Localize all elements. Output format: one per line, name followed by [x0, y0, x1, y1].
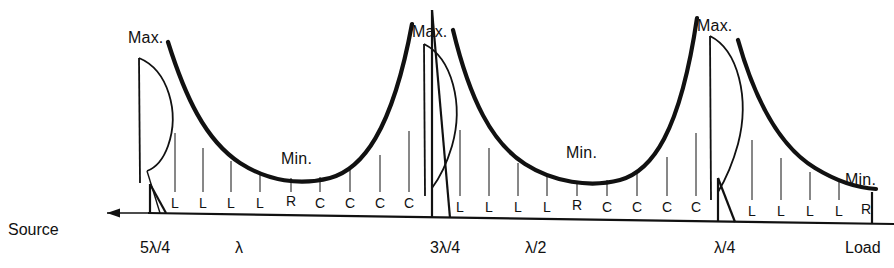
leaf-loop-3-spine — [710, 36, 711, 200]
cell-letter: C — [662, 200, 672, 214]
cell-letter: C — [375, 196, 385, 210]
cell-letter: C — [345, 196, 355, 210]
cell-letter: L — [256, 196, 264, 210]
distance-label-lambda4: λ/4 — [714, 240, 735, 256]
divider-lambda4 — [718, 178, 735, 222]
cell-letter: L — [456, 200, 464, 214]
cell-letter: C — [404, 196, 414, 210]
divider-3lambda4 — [432, 10, 450, 218]
cell-letter: C — [602, 200, 612, 214]
max-label-3: Max. — [697, 18, 732, 34]
cell-letter: R — [286, 194, 296, 208]
distance-label-lambda2: λ/2 — [525, 240, 546, 256]
cell-letter: L — [171, 196, 179, 210]
min-label-3: Min. — [845, 172, 876, 188]
distance-label-3lambda4: 3λ/4 — [430, 240, 460, 256]
distance-label-5lambda4: 5λ/4 — [140, 240, 170, 256]
min-label-1: Min. — [281, 151, 312, 167]
max-label-1: Max. — [128, 30, 163, 46]
leaf-loop-1-spine — [139, 58, 140, 183]
cell-letter: L — [835, 204, 843, 218]
distance-label-lambda: λ — [235, 240, 243, 256]
cell-letter: L — [485, 200, 493, 214]
cell-letter: L — [777, 204, 785, 218]
leaf-loop-3 — [710, 36, 743, 192]
cell-letter: L — [806, 204, 814, 218]
min-label-2: Min. — [566, 145, 597, 161]
swr-standing-wave-diagram: Source Max. Max. Max. Min. Min. Min. L L… — [0, 0, 894, 268]
load-label: Load — [845, 240, 881, 256]
leaf-loop-2-spine — [424, 44, 425, 196]
leaf-loop-1 — [139, 58, 173, 171]
cell-letter: R — [572, 198, 582, 212]
source-label: Source — [8, 222, 59, 238]
max-label-2: Max. — [412, 24, 447, 40]
source-arrow — [107, 209, 148, 218]
cell-letter: L — [227, 196, 235, 210]
cell-letter: R — [861, 202, 871, 216]
cell-letter: C — [632, 200, 642, 214]
cell-letter: L — [514, 200, 522, 214]
cell-letter: L — [543, 200, 551, 214]
cell-letter: C — [691, 200, 701, 214]
cell-letter: C — [315, 196, 325, 210]
envelope-curve-3 — [738, 40, 876, 189]
cell-letter: L — [199, 196, 207, 210]
cell-letter: L — [748, 204, 756, 218]
